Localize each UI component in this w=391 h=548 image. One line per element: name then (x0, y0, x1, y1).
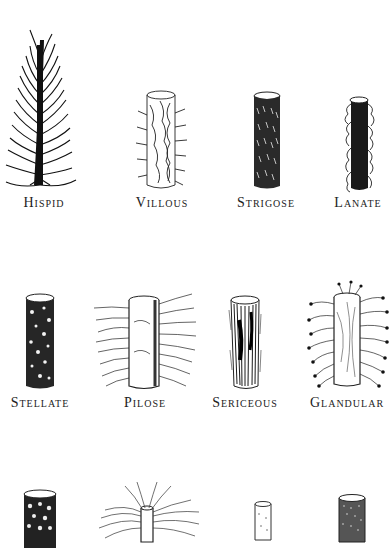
puberulent-stem-icon (253, 500, 273, 540)
illustration-strigose (243, 88, 293, 193)
label-villous: Villous (136, 195, 189, 211)
sericeous-stem-icon (225, 290, 267, 393)
illustration-villous (130, 85, 194, 195)
illustration-stellate (20, 290, 60, 393)
illustration-row3-2 (95, 482, 205, 536)
illustration-sericeous (225, 290, 267, 393)
label-lanate: Lanate (334, 195, 381, 211)
villous-stem-icon (130, 85, 194, 195)
illustration-lanate (340, 92, 380, 195)
hispid-stem-icon (0, 0, 90, 195)
illustration-row3-1 (20, 488, 60, 536)
stellate-stem-icon (20, 290, 60, 393)
label-sericeous: Sericeous (212, 395, 278, 411)
label-stellate: Stellate (11, 395, 70, 411)
illustration-hispid (0, 0, 90, 195)
scabrous-stem-icon (20, 488, 60, 548)
lanate-stem-icon (340, 92, 380, 195)
label-hispid: Hispid (23, 195, 64, 211)
illustration-pilose (92, 292, 198, 392)
label-glandular: Glandular (310, 395, 384, 411)
illustration-glandular (303, 282, 391, 392)
strigose-stem-icon (243, 88, 293, 193)
illustration-row3-3 (253, 500, 273, 536)
label-pilose: Pilose (124, 395, 166, 411)
pilose-stem-icon (92, 292, 198, 392)
scurfy-stem-icon (337, 492, 367, 542)
label-strigose: Strigose (237, 195, 295, 211)
glandular-stem-icon (303, 282, 391, 392)
tomentose-stem-icon (95, 482, 205, 542)
illustration-row3-4 (337, 492, 367, 536)
